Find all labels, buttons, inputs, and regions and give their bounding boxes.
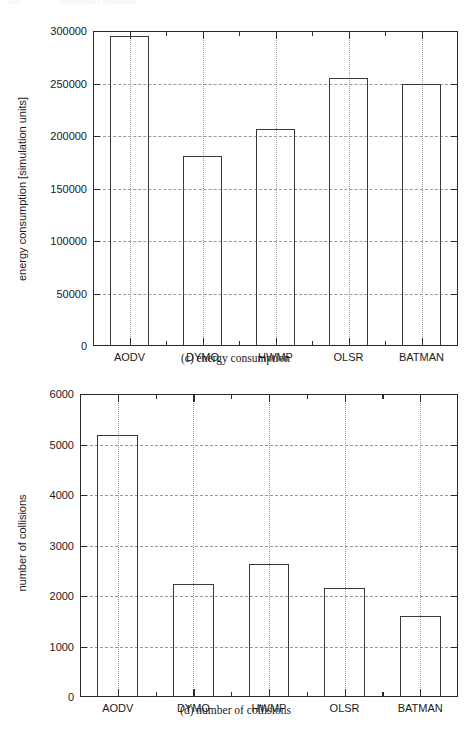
bar-olsr	[329, 78, 368, 346]
x-tick-mark	[420, 394, 421, 402]
bar-batman	[402, 84, 441, 347]
x-tick-mark	[203, 31, 204, 39]
x-tick-minor	[312, 31, 313, 36]
bar-aodv	[110, 36, 149, 346]
y-tick-mark	[451, 394, 458, 395]
y-tick-mark	[451, 31, 458, 32]
bar-batman	[400, 616, 441, 697]
y-tick-label: 200000	[35, 130, 87, 142]
y-tick-label: 2000	[22, 590, 74, 602]
y-tick-mark	[80, 394, 87, 395]
y-tick-mark	[451, 84, 458, 85]
figure-caption-energy: (c) energy consumption	[0, 352, 471, 364]
x-tick-mark	[276, 31, 277, 39]
y-tick-mark	[451, 136, 458, 137]
x-tick-mark	[269, 394, 270, 402]
bar-hwmp	[249, 564, 290, 697]
x-tick-minor	[231, 692, 232, 697]
page-running-header: 206 Performance evaluation	[0, 0, 471, 7]
y-tick-mark	[93, 294, 100, 295]
bar-aodv	[97, 435, 138, 697]
x-tick-minor	[382, 394, 383, 399]
x-tick-minor	[239, 341, 240, 346]
y-tick-label: 250000	[35, 78, 87, 90]
y-tick-mark	[451, 241, 458, 242]
y-tick-mark	[451, 596, 458, 597]
y-tick-label: 4000	[22, 489, 74, 501]
y-tick-mark	[451, 294, 458, 295]
y-tick-mark	[80, 596, 87, 597]
x-tick-mark	[345, 394, 346, 402]
x-tick-minor	[382, 692, 383, 697]
y-axis-label: energy consumption [simulation units]	[16, 97, 28, 281]
y-tick-mark	[93, 241, 100, 242]
x-tick-minor	[307, 394, 308, 399]
y-tick-label: 50000	[35, 288, 87, 300]
bar-olsr	[324, 588, 365, 697]
y-tick-mark	[93, 31, 100, 32]
y-tick-label: 100000	[35, 235, 87, 247]
page-number: 206	[8, 0, 20, 6]
x-tick-minor	[385, 31, 386, 36]
x-tick-mark	[118, 394, 119, 402]
bar-hwmp	[256, 129, 295, 346]
y-tick-label: 300000	[35, 25, 87, 37]
y-tick-label: 150000	[35, 183, 87, 195]
figure-caption-collisions: (d) number of collisions	[0, 704, 471, 716]
y-tick-mark	[451, 546, 458, 547]
y-tick-mark	[93, 84, 100, 85]
y-tick-mark	[93, 189, 100, 190]
y-tick-label: 6000	[22, 388, 74, 400]
y-tick-mark	[80, 495, 87, 496]
x-tick-minor	[239, 31, 240, 36]
y-tick-mark	[80, 546, 87, 547]
x-tick-minor	[385, 341, 386, 346]
y-tick-label: 1000	[22, 641, 74, 653]
x-tick-mark	[349, 31, 350, 39]
x-tick-mark	[193, 394, 194, 402]
y-tick-label: 3000	[22, 540, 74, 552]
y-tick-label: 5000	[22, 439, 74, 451]
bar-dymo	[183, 156, 222, 346]
y-tick-mark	[451, 647, 458, 648]
y-tick-label: 0	[35, 340, 87, 352]
x-tick-minor	[312, 341, 313, 346]
figure-number-of-collisions: number of collisions01000200030004000500…	[0, 388, 471, 750]
y-tick-mark	[93, 136, 100, 137]
figure-energy-consumption: energy consumption [simulation units]050…	[0, 14, 471, 374]
x-tick-minor	[231, 394, 232, 399]
x-tick-mark	[422, 31, 423, 39]
running-title: Performance evaluation	[60, 0, 136, 6]
y-tick-label: 0	[22, 691, 74, 703]
x-tick-minor	[156, 394, 157, 399]
y-tick-mark	[451, 189, 458, 190]
y-tick-mark	[80, 445, 87, 446]
bar-dymo	[173, 584, 214, 697]
x-tick-minor	[166, 31, 167, 36]
y-tick-mark	[80, 647, 87, 648]
y-tick-mark	[451, 495, 458, 496]
y-tick-mark	[451, 445, 458, 446]
x-tick-minor	[307, 692, 308, 697]
x-tick-minor	[166, 341, 167, 346]
x-tick-minor	[156, 692, 157, 697]
